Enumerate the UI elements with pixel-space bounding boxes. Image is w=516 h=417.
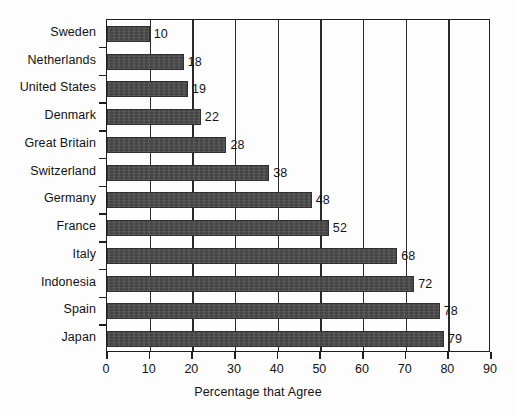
- bar-band: 68: [107, 242, 489, 270]
- x-axis-tick: [191, 352, 193, 359]
- bar-value-label: 52: [333, 221, 347, 235]
- x-axis-tick: [277, 352, 279, 359]
- category-label: Spain: [0, 302, 96, 316]
- x-axis-tick: [234, 352, 236, 359]
- bar[interactable]: [107, 26, 150, 42]
- bar-value-label: 38: [273, 166, 287, 180]
- y-axis-tick: [99, 297, 106, 299]
- bar-value-label: 68: [401, 249, 415, 263]
- y-axis-tick: [99, 75, 106, 77]
- category-label: Sweden: [0, 25, 96, 39]
- x-axis-tick: [106, 352, 108, 359]
- bar[interactable]: [107, 109, 201, 125]
- bar[interactable]: [107, 54, 184, 70]
- bar-band: 10: [107, 20, 489, 48]
- bar-chart: 101819222838485268727879 Percentage that…: [0, 0, 516, 417]
- bar-value-label: 79: [448, 332, 462, 346]
- x-axis-tick: [447, 352, 449, 359]
- bar-value-label: 22: [205, 110, 219, 124]
- x-axis-tick: [149, 352, 151, 359]
- bar-band: 22: [107, 103, 489, 131]
- bar-band: 72: [107, 270, 489, 298]
- bar[interactable]: [107, 165, 269, 181]
- x-axis-tick: [490, 352, 492, 359]
- bar-value-label: 19: [192, 82, 206, 96]
- bar-band: 18: [107, 48, 489, 76]
- bar-band: 78: [107, 298, 489, 326]
- bar-value-label: 18: [188, 55, 202, 69]
- bar-value-label: 72: [418, 277, 432, 291]
- bar-value-label: 48: [316, 193, 330, 207]
- category-label: Denmark: [0, 108, 96, 122]
- bar[interactable]: [107, 192, 312, 208]
- category-label: Italy: [0, 247, 96, 261]
- bar-band: 38: [107, 159, 489, 187]
- category-label: Japan: [0, 330, 96, 344]
- bar[interactable]: [107, 331, 444, 347]
- bar-band: 28: [107, 131, 489, 159]
- bar[interactable]: [107, 276, 414, 292]
- bar-value-label: 28: [230, 138, 244, 152]
- category-label: Switzerland: [0, 164, 96, 178]
- y-axis-tick: [99, 213, 106, 215]
- plot-area: 101819222838485268727879: [106, 19, 490, 352]
- category-label: Great Britain: [0, 136, 96, 150]
- category-label: Indonesia: [0, 275, 96, 289]
- category-label: Germany: [0, 191, 96, 205]
- y-axis-tick: [99, 130, 106, 132]
- bar-value-label: 10: [154, 27, 168, 41]
- bar-band: 52: [107, 214, 489, 242]
- bar-band: 19: [107, 76, 489, 104]
- x-axis-tick-label: 90: [465, 362, 515, 376]
- y-axis-tick: [99, 186, 106, 188]
- y-axis-tick: [99, 158, 106, 160]
- category-label: France: [0, 219, 96, 233]
- x-axis-title: Percentage that Agree: [0, 385, 516, 399]
- y-axis-tick: [99, 102, 106, 104]
- y-axis-tick: [99, 241, 106, 243]
- bar-band: 48: [107, 187, 489, 215]
- bar[interactable]: [107, 220, 329, 236]
- x-axis-tick: [319, 352, 321, 359]
- y-axis-tick: [99, 47, 106, 49]
- bar[interactable]: [107, 248, 397, 264]
- category-label: United States: [0, 80, 96, 94]
- bar[interactable]: [107, 303, 440, 319]
- bar-value-label: 78: [444, 304, 458, 318]
- x-axis-tick: [405, 352, 407, 359]
- category-label: Netherlands: [0, 53, 96, 67]
- bar-band: 79: [107, 325, 489, 353]
- x-axis-tick: [362, 352, 364, 359]
- y-axis-tick: [99, 269, 106, 271]
- bar[interactable]: [107, 137, 226, 153]
- bar[interactable]: [107, 81, 188, 97]
- y-axis-tick: [99, 324, 106, 326]
